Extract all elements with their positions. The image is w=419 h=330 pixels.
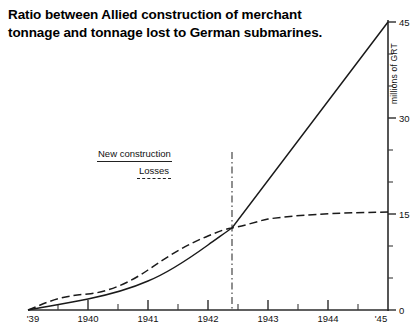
x-tick-label-1942: 1942 <box>197 313 218 324</box>
x-tick-label-1944: 1944 <box>317 313 338 324</box>
x-tick-label-1945: '45 <box>375 313 387 324</box>
series-line-new-construction <box>28 22 388 310</box>
legend: New construction Losses <box>97 148 192 179</box>
chart-figure: Ratio between Allied construction of mer… <box>0 0 419 330</box>
y-tick-label-15: 15 <box>399 209 410 220</box>
legend-losses: Losses <box>116 165 192 179</box>
legend-new-construction-label: New construction <box>97 148 172 162</box>
y-tick-label-0: 0 <box>399 305 404 316</box>
series-line-losses <box>28 212 388 310</box>
x-tick-label-1940: 1940 <box>77 313 98 324</box>
x-tick-label-1939: '39 <box>27 313 39 324</box>
y-tick-label-30: 30 <box>399 113 410 124</box>
legend-losses-label: Losses <box>137 165 171 179</box>
plot-area <box>0 0 419 330</box>
x-tick-label-1941: 1941 <box>137 313 158 324</box>
x-major-ticks <box>88 300 328 310</box>
y-tick-label-45: 45 <box>399 17 410 28</box>
legend-new-construction: New construction <box>97 148 192 162</box>
y-axis-title: millions of GRT <box>389 0 399 104</box>
x-tick-label-1943: 1943 <box>257 313 278 324</box>
